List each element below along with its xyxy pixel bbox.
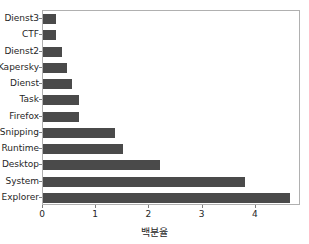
x-axis-tick-label: 0 bbox=[39, 209, 45, 219]
y-axis-tick-mark bbox=[39, 83, 42, 84]
bar-fill bbox=[43, 79, 72, 89]
x-axis-tick-mark bbox=[202, 205, 203, 208]
bar-fill bbox=[43, 144, 123, 154]
bar bbox=[43, 47, 62, 57]
y-axis-tick-mark bbox=[39, 116, 42, 117]
y-axis-tick-mark bbox=[39, 51, 42, 52]
bar bbox=[43, 14, 56, 24]
x-axis-tick-mark bbox=[42, 205, 43, 208]
y-axis-tick-mark bbox=[39, 18, 42, 19]
y-axis-tick-label: Kapersky bbox=[0, 62, 39, 72]
bar-fill bbox=[43, 47, 62, 57]
bar bbox=[43, 193, 290, 203]
bar bbox=[43, 112, 79, 122]
y-axis-tick-mark bbox=[39, 99, 42, 100]
x-axis-tick-label: 3 bbox=[199, 209, 205, 219]
bar-fill bbox=[43, 63, 67, 73]
y-axis-tick-label: CTF bbox=[22, 29, 39, 39]
bar bbox=[43, 128, 115, 138]
y-axis-tick-mark bbox=[39, 67, 42, 68]
bar bbox=[43, 160, 160, 170]
bar-chart-figure: ExplorerSystemDesktopRuntimeSnippingFire… bbox=[0, 0, 309, 244]
bar bbox=[43, 95, 79, 105]
y-axis-tick-label: Snipping bbox=[0, 127, 39, 137]
y-axis-tick-mark bbox=[39, 34, 42, 35]
bar bbox=[43, 79, 72, 89]
bar-fill bbox=[43, 30, 56, 40]
y-axis-tick-label: Desktop bbox=[2, 159, 39, 169]
y-axis-tick-label: Task bbox=[20, 94, 39, 104]
plot-area bbox=[42, 10, 300, 205]
bars-group bbox=[43, 11, 299, 204]
y-axis-tick-label: Dienst bbox=[10, 78, 39, 88]
x-axis-tick-label: 4 bbox=[252, 209, 258, 219]
bar bbox=[43, 177, 245, 187]
y-axis-tick-label: Runtime bbox=[1, 143, 39, 153]
y-axis-tick-label: Dienst3 bbox=[4, 13, 39, 23]
y-axis-tick-label: System bbox=[5, 176, 39, 186]
bar-fill bbox=[43, 160, 160, 170]
x-axis-tick-mark bbox=[148, 205, 149, 208]
bar-fill bbox=[43, 177, 245, 187]
y-axis-tick-mark bbox=[39, 197, 42, 198]
y-axis-tick-mark bbox=[39, 148, 42, 149]
y-axis-tick-label: Firefox bbox=[9, 111, 39, 121]
x-axis-tick-mark bbox=[255, 205, 256, 208]
bar-fill bbox=[43, 95, 79, 105]
bar bbox=[43, 63, 67, 73]
y-axis-tick-mark bbox=[39, 181, 42, 182]
x-axis-tick-label: 1 bbox=[92, 209, 98, 219]
x-axis-tick-mark bbox=[95, 205, 96, 208]
bar-fill bbox=[43, 14, 56, 24]
y-axis-tick-mark bbox=[39, 164, 42, 165]
y-axis-tick-mark bbox=[39, 132, 42, 133]
bar-fill bbox=[43, 193, 290, 203]
bar bbox=[43, 144, 123, 154]
x-axis-tick-label: 2 bbox=[146, 209, 152, 219]
y-axis-tick-label: Explorer bbox=[2, 192, 39, 202]
bar-fill bbox=[43, 128, 115, 138]
y-axis-tick-label: Dienst2 bbox=[4, 46, 39, 56]
bar bbox=[43, 30, 56, 40]
x-axis-title: 백분율 bbox=[0, 224, 309, 239]
bar-fill bbox=[43, 112, 79, 122]
